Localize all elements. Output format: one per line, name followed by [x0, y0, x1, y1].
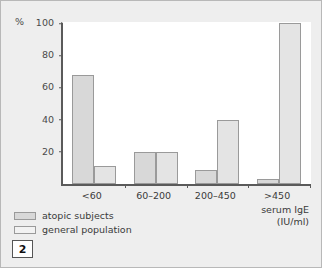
y-axis-tick-100: 100 — [36, 18, 63, 28]
y-axis-tick-label: 20 — [42, 147, 59, 157]
bar-general-1 — [156, 152, 178, 184]
x-axis-label-3: >450 — [264, 191, 290, 201]
bar-atopic-1 — [134, 152, 156, 184]
bar-atopic-0 — [72, 75, 94, 184]
y-axis-tick-label: 60 — [42, 83, 59, 93]
y-axis-tick-40: 40 — [42, 115, 63, 125]
figure-panel: % 20406080100 serum IgE (IU/ml) atopic s… — [0, 0, 322, 268]
x-axis-tick-mark-3 — [310, 184, 311, 188]
x-axis-label-1: 60–200 — [136, 191, 171, 201]
x-axis-label-2: 200–450 — [195, 191, 236, 201]
x-axis-tick-mark-1 — [187, 184, 188, 188]
y-axis-tick-mark — [59, 55, 63, 56]
y-axis-tick-60: 60 — [42, 83, 63, 93]
bar-atopic-3 — [257, 179, 279, 184]
y-axis-tick-mark — [59, 87, 63, 88]
figure-number-badge: 2 — [12, 240, 33, 258]
x-axis-label-0: <60 — [82, 191, 102, 201]
y-axis-tick-mark — [59, 152, 63, 153]
bar-general-0 — [94, 166, 116, 184]
y-axis-unit-label: % — [15, 17, 24, 27]
y-axis-tick-20: 20 — [42, 147, 63, 157]
x-axis-tick-mark-0 — [125, 184, 126, 188]
plot-frame: 20406080100 — [61, 22, 311, 186]
y-axis-tick-label: 40 — [42, 115, 59, 125]
x-axis-title: serum IgE (IU/ml) — [261, 204, 309, 228]
y-axis-tick-80: 80 — [42, 50, 63, 60]
legend: atopic subjects general population — [14, 210, 132, 238]
plot-area: 20406080100 — [63, 23, 310, 184]
legend-item-atopic-subjects: atopic subjects — [14, 210, 132, 222]
x-axis-title-line2: (IU/ml) — [261, 216, 309, 228]
y-axis-tick-label: 80 — [42, 50, 59, 60]
y-axis-tick-mark — [59, 119, 63, 120]
y-axis-tick-label: 100 — [36, 18, 59, 28]
x-axis-title-line1: serum IgE — [261, 204, 309, 216]
legend-swatch-icon-general-population — [14, 226, 36, 234]
bar-atopic-2 — [195, 170, 217, 184]
x-axis-tick-mark-2 — [248, 184, 249, 188]
bar-general-3 — [279, 23, 301, 184]
legend-label-general-population: general population — [42, 225, 132, 235]
y-axis-tick-mark — [59, 23, 63, 24]
legend-item-general-population: general population — [14, 224, 132, 236]
legend-swatch-icon-atopic-subjects — [14, 212, 36, 220]
legend-label-atopic-subjects: atopic subjects — [42, 211, 114, 221]
bar-general-2 — [217, 120, 239, 184]
